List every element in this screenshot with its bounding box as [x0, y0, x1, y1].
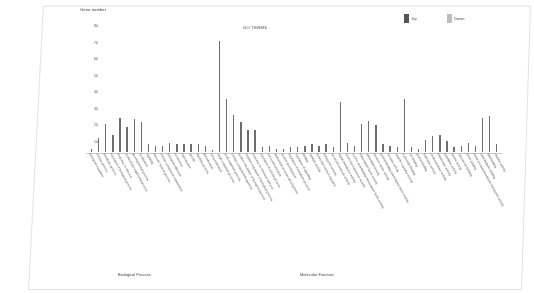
- bar[interactable]: [382, 144, 383, 152]
- bar[interactable]: [254, 130, 255, 152]
- bar[interactable]: [269, 146, 270, 152]
- bar-cell: [280, 27, 287, 152]
- bar-cell: [116, 27, 123, 152]
- bar-cell: [458, 27, 465, 152]
- bar-cell: [408, 27, 415, 152]
- bar-cell: [109, 27, 116, 152]
- bar[interactable]: [155, 146, 156, 152]
- bar-cell: [188, 27, 195, 152]
- bar[interactable]: [425, 140, 426, 153]
- bar-cell: [166, 27, 173, 152]
- bar[interactable]: [304, 146, 305, 152]
- bar[interactable]: [134, 119, 135, 152]
- legend-item-down[interactable]: Down: [447, 14, 465, 23]
- bar[interactable]: [347, 143, 348, 152]
- bar-cell: [301, 27, 308, 152]
- bar[interactable]: [240, 122, 241, 152]
- bar-cell: [159, 27, 166, 152]
- bar-cell: [394, 27, 401, 152]
- group-label-molecular-function: Molecular Function: [300, 272, 334, 277]
- bar[interactable]: [461, 146, 462, 152]
- bar[interactable]: [233, 115, 234, 153]
- plot-area: [88, 27, 500, 152]
- bar-cell: [145, 27, 152, 152]
- bar[interactable]: [105, 124, 106, 152]
- bar[interactable]: [475, 146, 476, 152]
- bar-cell: [131, 27, 138, 152]
- bar[interactable]: [198, 144, 199, 152]
- bar[interactable]: [432, 136, 433, 152]
- bar-cell: [443, 27, 450, 152]
- bar[interactable]: [489, 116, 490, 152]
- bar-cell: [351, 27, 358, 152]
- bar-cell: [244, 27, 251, 152]
- bar-cell: [465, 27, 472, 152]
- bar-cell: [451, 27, 458, 152]
- bar[interactable]: [354, 146, 355, 152]
- bar[interactable]: [496, 144, 497, 152]
- bar[interactable]: [119, 118, 120, 152]
- bar-cell: [387, 27, 394, 152]
- bar-cell: [365, 27, 372, 152]
- bar-cell: [202, 27, 209, 152]
- legend-item-up[interactable]: Up: [404, 14, 417, 23]
- bar[interactable]: [190, 144, 191, 152]
- bar-cell: [415, 27, 422, 152]
- bar-cell: [273, 27, 280, 152]
- bar[interactable]: [205, 146, 206, 152]
- bar-cell: [216, 27, 223, 152]
- bar-cell: [372, 27, 379, 152]
- bar-cell: [287, 27, 294, 152]
- bar[interactable]: [482, 118, 483, 152]
- bar[interactable]: [219, 41, 220, 152]
- legend-label-up: Up: [412, 16, 417, 21]
- bar-cell: [102, 27, 109, 152]
- bar[interactable]: [340, 102, 341, 152]
- bar-cell: [259, 27, 266, 152]
- x-axis-tick-labels: biological regulationcellular processmet…: [88, 153, 500, 261]
- bar[interactable]: [361, 124, 362, 152]
- chart-screenshot: Gene number GO TERMS Up Down 80706050403…: [0, 0, 534, 293]
- bar[interactable]: [247, 130, 248, 152]
- legend-label-down: Down: [454, 16, 464, 21]
- bar[interactable]: [446, 141, 447, 152]
- bar-cell: [266, 27, 273, 152]
- bar[interactable]: [389, 146, 390, 152]
- bar[interactable]: [368, 121, 369, 152]
- bar[interactable]: [148, 144, 149, 152]
- bar-cell: [124, 27, 131, 152]
- bar-cell: [138, 27, 145, 152]
- bar[interactable]: [226, 99, 227, 152]
- bar-cell: [429, 27, 436, 152]
- legend-swatch-down: [447, 14, 452, 23]
- bar-cell: [237, 27, 244, 152]
- bar-cell: [358, 27, 365, 152]
- bar[interactable]: [439, 135, 440, 152]
- chart-legend: Up Down: [404, 14, 464, 23]
- bar[interactable]: [141, 122, 142, 152]
- bar[interactable]: [98, 138, 99, 152]
- bar[interactable]: [375, 125, 376, 152]
- bar-cell: [330, 27, 337, 152]
- bar-cell: [223, 27, 230, 152]
- bar[interactable]: [112, 135, 113, 152]
- bar-cell: [422, 27, 429, 152]
- bar-cell: [195, 27, 202, 152]
- bar[interactable]: [404, 99, 405, 152]
- bar[interactable]: [162, 146, 163, 152]
- bar-cell: [152, 27, 159, 152]
- bar[interactable]: [176, 144, 177, 152]
- bar[interactable]: [126, 127, 127, 152]
- bar[interactable]: [468, 143, 469, 152]
- bar-cell: [308, 27, 315, 152]
- bar[interactable]: [311, 144, 312, 152]
- bar[interactable]: [318, 146, 319, 152]
- bar-cell: [472, 27, 479, 152]
- bar-cell: [436, 27, 443, 152]
- bar[interactable]: [325, 144, 326, 152]
- bar[interactable]: [169, 143, 170, 152]
- bar[interactable]: [183, 144, 184, 152]
- bar-cell: [379, 27, 386, 152]
- bar-cell: [316, 27, 323, 152]
- bar-cell: [486, 27, 493, 152]
